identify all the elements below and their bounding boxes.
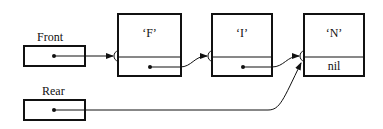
node-n-next: nil — [304, 60, 364, 72]
rear-label: Rear — [42, 85, 65, 97]
node-i-value: ‘I’ — [212, 27, 272, 39]
front-label: Front — [37, 31, 63, 43]
node-f-value: ‘F’ — [118, 27, 181, 39]
node-n-value: ‘N’ — [304, 27, 364, 39]
linked-queue-diagram: Front Rear ‘F’ ‘I’ ‘N’ nil — [0, 0, 383, 129]
